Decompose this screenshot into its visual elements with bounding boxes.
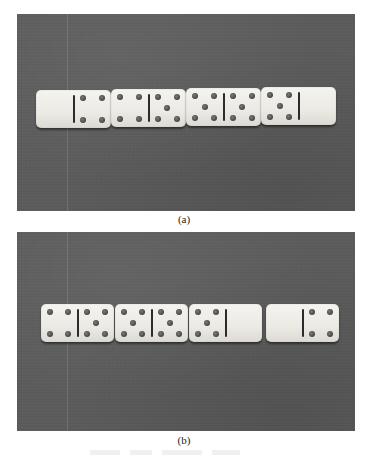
pip-dot [158, 331, 164, 337]
pip-dot [195, 309, 201, 315]
pip-dot [117, 94, 123, 100]
domino-divider-bar [298, 92, 300, 120]
domino-half-left [36, 90, 74, 128]
domino-tile [115, 304, 188, 342]
pip-dot [164, 105, 170, 111]
domino-tile [266, 304, 339, 342]
pip-dot [230, 93, 236, 99]
pip-dot [155, 116, 161, 122]
pip-dot [117, 116, 123, 122]
pip-dot [230, 115, 236, 121]
domino-half-right [226, 304, 263, 342]
domino-tile [111, 89, 186, 127]
pip-dot [65, 309, 71, 315]
domino-half-left [115, 304, 152, 342]
pip-dot [277, 103, 283, 109]
pip-dot [84, 331, 90, 337]
pip-dot [47, 331, 53, 337]
domino-divider-bar [302, 309, 304, 337]
faint-bleedthrough-caption [90, 450, 290, 456]
domino-half-right [74, 90, 112, 128]
pip-dot [121, 331, 127, 337]
panel-label-a: (a) [0, 213, 368, 225]
pip-dot [80, 117, 86, 123]
domino-half-right [78, 304, 115, 342]
domino-divider-bar [148, 94, 150, 122]
domino-tile [189, 304, 262, 342]
pip-dot [174, 116, 180, 122]
pip-dot [176, 331, 182, 337]
domino-divider-bar [151, 309, 153, 337]
domino-half-right [224, 88, 262, 126]
pip-dot [102, 309, 108, 315]
pip-dot [136, 116, 142, 122]
pip-dot [65, 331, 71, 337]
pip-dot [239, 104, 245, 110]
pip-dot [158, 309, 164, 315]
pip-dot [267, 92, 273, 98]
domino-half-right [149, 89, 187, 127]
domino-half-right [303, 304, 340, 342]
pip-dot [99, 95, 105, 101]
pip-dot [211, 115, 217, 121]
photo-panel-b [17, 232, 355, 431]
domino-tile [36, 90, 111, 128]
domino-half-left [111, 89, 149, 127]
pip-dot [167, 320, 173, 326]
domino-tile [261, 87, 336, 125]
pip-dot [155, 94, 161, 100]
domino-half-left [266, 304, 303, 342]
pip-dot [130, 320, 136, 326]
pip-dot [213, 331, 219, 337]
pip-dot [202, 104, 208, 110]
pip-dot [286, 92, 292, 98]
domino-divider-bar [223, 93, 225, 121]
pip-dot [192, 115, 198, 121]
domino-half-right [299, 87, 337, 125]
pip-dot [139, 331, 145, 337]
pip-dot [93, 320, 99, 326]
domino-half-left [189, 304, 226, 342]
domino-half-left [41, 304, 78, 342]
domino-divider-bar [73, 95, 75, 123]
pip-dot [286, 114, 292, 120]
domino-half-left [261, 87, 299, 125]
pip-dot [99, 117, 105, 123]
pip-dot [136, 94, 142, 100]
pip-dot [309, 309, 315, 315]
pip-dot [204, 320, 210, 326]
pip-dot [176, 309, 182, 315]
domino-divider-bar [77, 309, 79, 337]
pip-dot [80, 95, 86, 101]
domino-half-right [152, 304, 189, 342]
pip-dot [267, 114, 273, 120]
pip-dot [309, 331, 315, 337]
pip-dot [139, 309, 145, 315]
pip-dot [249, 115, 255, 121]
pip-dot [213, 309, 219, 315]
domino-tile [186, 88, 261, 126]
photo-panel-a [17, 14, 355, 211]
pip-dot [327, 331, 333, 337]
pip-dot [47, 309, 53, 315]
pip-dot [327, 309, 333, 315]
panel-label-b: (b) [0, 434, 368, 446]
domino-divider-bar [225, 309, 227, 337]
pip-dot [102, 331, 108, 337]
pip-dot [121, 309, 127, 315]
pip-dot [249, 93, 255, 99]
pip-dot [174, 94, 180, 100]
pip-dot [192, 93, 198, 99]
pip-dot [84, 309, 90, 315]
domino-half-left [186, 88, 224, 126]
pip-dot [211, 93, 217, 99]
domino-tile [41, 304, 114, 342]
pip-dot [195, 331, 201, 337]
